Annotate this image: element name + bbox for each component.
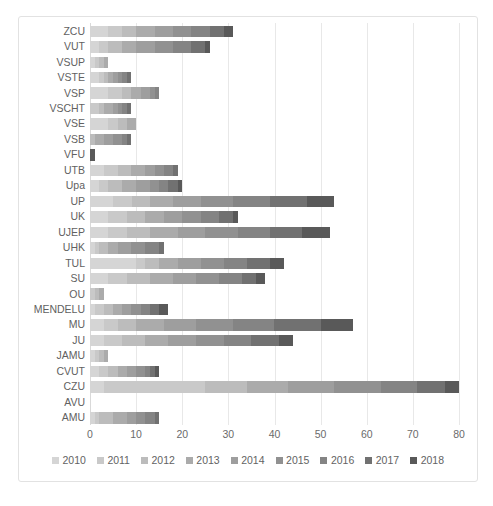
x-tick-80: 80: [453, 429, 465, 440]
chart-row: UP: [90, 193, 459, 208]
bar-segment-2014: [164, 319, 196, 331]
stacked-bar-upa[interactable]: [90, 180, 182, 192]
legend-item-2016[interactable]: 2016: [320, 455, 354, 466]
bar-segment-2014: [155, 26, 173, 38]
stacked-bar-su[interactable]: [90, 273, 265, 285]
stacked-bar-vsup[interactable]: [90, 57, 108, 69]
chart-row: SU: [90, 270, 459, 285]
legend-item-2018[interactable]: 2018: [410, 455, 444, 466]
stacked-bar-ou[interactable]: [90, 288, 104, 300]
stacked-bar-utb[interactable]: [90, 165, 178, 177]
y-axis-label-zcu: ZCU: [63, 25, 85, 36]
stacked-bar-cvut[interactable]: [90, 366, 159, 378]
legend-item-2013[interactable]: 2013: [186, 455, 220, 466]
bar-segment-2017: [417, 381, 445, 393]
stacked-bar-up[interactable]: [90, 196, 334, 208]
bar-segment-2010: [90, 211, 108, 223]
stacked-bar-tul[interactable]: [90, 258, 284, 270]
bar-segment-2015: [182, 211, 200, 223]
y-axis-label-vfu: VFU: [64, 149, 85, 160]
stacked-bar-mendelu[interactable]: [90, 304, 168, 316]
stacked-bar-jamu[interactable]: [90, 350, 108, 362]
x-tick-0: 0: [87, 429, 93, 440]
legend-item-2010[interactable]: 2010: [52, 455, 86, 466]
bar-segment-2017: [159, 242, 164, 254]
bar-segment-2016: [191, 26, 209, 38]
bar-segment-2017: [127, 72, 132, 84]
stacked-bar-vfu[interactable]: [90, 149, 95, 161]
bar-segment-2018: [224, 26, 233, 38]
legend-item-2017[interactable]: 2017: [365, 455, 399, 466]
stacked-bar-vsb[interactable]: [90, 134, 131, 146]
legend-item-2014[interactable]: 2014: [231, 455, 265, 466]
bar-segment-2011: [104, 165, 118, 177]
bar-segment-2012: [108, 41, 122, 53]
chart-row: MU: [90, 317, 459, 332]
bar-segment-2010: [90, 273, 108, 285]
legend-item-2015[interactable]: 2015: [276, 455, 310, 466]
legend-swatch-icon: [365, 457, 372, 464]
stacked-bar-uk[interactable]: [90, 211, 238, 223]
stacked-bar-vste[interactable]: [90, 72, 131, 84]
bar-segment-2015: [113, 134, 122, 146]
bar-segment-2014: [136, 180, 150, 192]
bar-segment-2018: [302, 227, 330, 239]
bar-segment-2010: [90, 72, 99, 84]
bar-segment-2010: [90, 366, 99, 378]
bar-segment-2013: [247, 381, 289, 393]
bar-segment-2012: [122, 26, 136, 38]
bar-segment-2016: [155, 87, 160, 99]
bar-segment-2014: [136, 41, 154, 53]
chart-row: MENDELU: [90, 301, 459, 316]
legend-item-2012[interactable]: 2012: [141, 455, 175, 466]
bar-segment-2017: [127, 103, 132, 115]
stacked-bar-ujep[interactable]: [90, 227, 330, 239]
legend-swatch-icon: [231, 457, 238, 464]
stacked-bar-uhk[interactable]: [90, 242, 164, 254]
stacked-bar-czu[interactable]: [90, 381, 459, 393]
bar-segment-2017: [191, 41, 205, 53]
bar-segment-2017: [210, 26, 224, 38]
bar-segment-2016: [219, 273, 242, 285]
y-axis-label-su: SU: [70, 273, 85, 284]
y-axis-label-upa: Upa: [66, 180, 85, 191]
bar-segment-2014: [127, 366, 136, 378]
chart-row: UK: [90, 209, 459, 224]
bar-segment-2013: [150, 273, 173, 285]
y-axis-label-uk: UK: [70, 211, 85, 222]
chart-row: Upa: [90, 178, 459, 193]
bar-segment-2010: [90, 258, 136, 270]
stacked-bar-vsp[interactable]: [90, 87, 159, 99]
stacked-bar-amu[interactable]: [90, 412, 159, 424]
stacked-bar-vut[interactable]: [90, 41, 210, 53]
bar-segment-2012: [132, 196, 150, 208]
bar-segment-2012: [108, 180, 122, 192]
stacked-bar-mu[interactable]: [90, 319, 353, 331]
y-axis-label-ou: OU: [69, 288, 85, 299]
bar-segment-2015: [196, 273, 219, 285]
stacked-bar-vse[interactable]: [90, 118, 136, 130]
bar-segment-2010: [90, 196, 113, 208]
stacked-bar-vscht[interactable]: [90, 103, 131, 115]
bar-segment-2016: [145, 412, 154, 424]
bar-segment-2017: [155, 412, 160, 424]
bar-segment-2015: [136, 366, 145, 378]
x-tick-20: 20: [176, 429, 188, 440]
bar-segment-2018: [178, 180, 183, 192]
x-axis-tick-labels: 01020304050607080: [90, 429, 459, 445]
bar-segment-2013: [113, 412, 127, 424]
bar-segment-2012: [108, 366, 117, 378]
bar-segment-2011: [104, 335, 122, 347]
bar-segment-2013: [150, 196, 173, 208]
bar-segment-2012: [122, 87, 131, 99]
bar-segment-2016: [145, 242, 159, 254]
bar-segment-2015: [136, 412, 145, 424]
y-axis-label-up: UP: [70, 196, 85, 207]
stacked-bar-zcu[interactable]: [90, 26, 233, 38]
y-axis-label-vsp: VSP: [64, 87, 85, 98]
bar-segment-2012: [127, 227, 150, 239]
stacked-bar-ju[interactable]: [90, 335, 293, 347]
bar-segment-2011: [108, 87, 122, 99]
legend-item-2011[interactable]: 2011: [97, 455, 130, 466]
chart-row: ZCU: [90, 23, 459, 38]
